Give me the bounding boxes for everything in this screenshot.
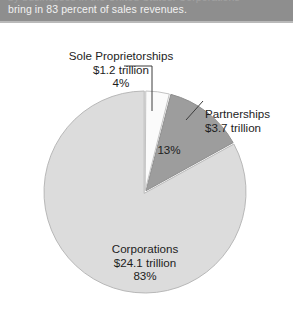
label-sole-proprietorships-amount: $1.2 trillion: [93, 63, 149, 76]
label-corporations-amount: $24.1 trillion: [114, 256, 177, 269]
label-sole-proprietorships-percent: 4%: [0, 76, 242, 90]
chart-area: Sole Proprietorships $1.2 trillion 4% Pa…: [0, 23, 293, 317]
label-partnerships-amount: $3.7 trillion: [205, 121, 261, 134]
label-partnerships-percent: 13%: [147, 143, 191, 157]
running-text-band: by businesses in the United States. Corp…: [0, 0, 293, 21]
label-partnerships-name: Partnerships: [205, 107, 270, 120]
label-sole-proprietorships: Sole Proprietorships $1.2 trillion 4%: [0, 49, 242, 90]
label-corporations-name: Corporations: [112, 242, 178, 255]
pie-chart-figure: by businesses in the United States. Corp…: [0, 0, 293, 317]
band-text-main: bring in 83 percent of sales revenues.: [8, 3, 187, 15]
label-corporations: Corporations $24.1 trillion 83%: [45, 242, 245, 283]
label-partnerships: Partnerships $3.7 trillion: [205, 107, 270, 134]
label-corporations-percent: 83%: [133, 269, 156, 282]
label-sole-proprietorships-name: Sole Proprietorships: [69, 49, 173, 62]
